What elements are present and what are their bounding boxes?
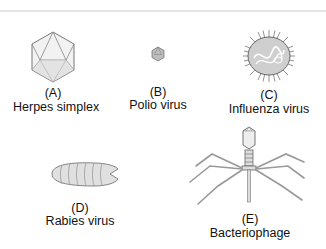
virus-letter: (C) [224,88,314,102]
virus-letter: (A) [13,86,93,100]
virus-name: Herpes simplex [13,100,93,114]
bacteriophage-icon [190,126,310,212]
rabies-bullet-icon [44,160,120,188]
virus-letter: (E) [206,212,294,226]
virus-name: Rabies virus [40,214,120,228]
virus-name: Bacteriophage [206,226,294,240]
virus-letter: (D) [40,201,120,215]
top-divider [0,10,326,12]
polio-icosahedron-icon [152,47,164,61]
virus-name: Polio virus [118,98,198,112]
influenza-spiked-sphere-icon [236,28,302,84]
herpes-icosahedron-icon [30,30,76,84]
virus-letter: (B) [118,85,198,99]
virus-name: Influenza virus [224,102,314,116]
